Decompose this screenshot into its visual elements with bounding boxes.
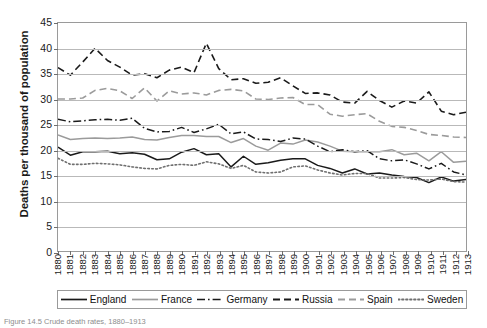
x-tick-label: 1913: [462, 254, 473, 275]
legend-item-france[interactable]: France: [132, 294, 192, 305]
x-tick-label: 1910: [425, 254, 436, 275]
gridline: [58, 227, 466, 228]
x-tick-label: 1905: [363, 254, 374, 275]
chart-lines: [58, 23, 466, 251]
x-tick-label: 1896: [251, 254, 262, 275]
y-tick-mark: [54, 100, 58, 101]
x-tick-label: 1901: [313, 254, 324, 275]
x-tick-label: 1908: [400, 254, 411, 275]
x-tick-label: 1903: [338, 254, 349, 275]
x-tick-label: 1898: [276, 254, 287, 275]
y-tick-mark: [54, 49, 58, 50]
y-tick-mark: [54, 202, 58, 203]
x-tick-label: 1897: [263, 254, 274, 275]
legend-swatch-russia: [273, 295, 299, 304]
gridline: [58, 151, 466, 152]
legend-item-spain[interactable]: Spain: [338, 294, 393, 305]
legend-label: England: [90, 294, 127, 305]
x-tick-label: 1887: [139, 254, 150, 275]
figure-caption: Figure 14.5 Crude death rates, 1880–1913: [4, 317, 146, 326]
legend-swatch-england: [61, 295, 87, 304]
x-tick-label: 1885: [114, 254, 125, 275]
chart-legend: EnglandFranceGermanyRussiaSpainSweden: [57, 290, 467, 309]
x-tick-label: 1889: [164, 254, 175, 275]
y-tick-label: 15: [18, 169, 52, 181]
plot-area: [57, 22, 467, 252]
legend-label: France: [161, 294, 192, 305]
series-line-russia: [58, 43, 466, 114]
x-tick-label: 1907: [387, 254, 398, 275]
x-tick-label: 1886: [127, 254, 138, 275]
x-tick-label: 1880: [52, 254, 63, 275]
legend-item-russia[interactable]: Russia: [273, 294, 333, 305]
gridline: [58, 176, 466, 177]
y-tick-label: 5: [18, 220, 52, 232]
gridline: [58, 49, 466, 50]
x-tick-label: 1894: [226, 254, 237, 275]
y-tick-mark: [54, 176, 58, 177]
legend-swatch-france: [132, 295, 158, 304]
y-tick-mark: [54, 74, 58, 75]
y-tick-label: 10: [18, 195, 52, 207]
x-tick-label: 1902: [325, 254, 336, 275]
x-tick-label: 1881: [64, 254, 75, 275]
legend-label: Russia: [302, 294, 333, 305]
y-tick-label: 40: [18, 42, 52, 54]
y-tick-mark: [54, 125, 58, 126]
gridline: [58, 202, 466, 203]
series-line-france: [58, 135, 466, 162]
x-tick-label: 1892: [201, 254, 212, 275]
series-line-spain: [58, 88, 466, 138]
legend-swatch-sweden: [398, 295, 424, 304]
x-tick-label: 1906: [375, 254, 386, 275]
legend-swatch-germany: [197, 295, 223, 304]
x-tick-label: 1883: [89, 254, 100, 275]
x-tick-label: 1884: [102, 254, 113, 275]
x-tick-label: 1912: [450, 254, 461, 275]
y-axis-tick-labels: 051015202530354045: [18, 16, 52, 256]
legend-swatch-spain: [338, 295, 364, 304]
x-tick-label: 1891: [189, 254, 200, 275]
y-tick-label: 25: [18, 118, 52, 130]
legend-label: Germany: [226, 294, 267, 305]
legend-item-england[interactable]: England: [61, 294, 127, 305]
x-tick-label: 1900: [300, 254, 311, 275]
gridline: [58, 74, 466, 75]
figure-container: Deaths per thousand of population 051015…: [0, 0, 487, 328]
x-tick-label: 1911: [437, 254, 448, 274]
y-tick-label: 45: [18, 16, 52, 28]
x-tick-label: 1895: [238, 254, 249, 275]
gridline: [58, 100, 466, 101]
y-tick-label: 20: [18, 144, 52, 156]
x-tick-label: 1888: [151, 254, 162, 275]
y-tick-mark: [54, 151, 58, 152]
legend-label: Spain: [367, 294, 393, 305]
x-tick-label: 1882: [77, 254, 88, 275]
y-tick-label: 30: [18, 93, 52, 105]
x-tick-label: 1909: [412, 254, 423, 275]
y-tick-mark: [54, 23, 58, 24]
x-tick-label: 1890: [176, 254, 187, 275]
gridline: [58, 125, 466, 126]
x-axis-tick-labels: 1880188118821883188418851886188718881889…: [57, 254, 467, 294]
legend-label: Sweden: [427, 294, 463, 305]
y-tick-label: 0: [18, 246, 52, 258]
y-tick-mark: [54, 227, 58, 228]
series-line-sweden: [58, 158, 466, 182]
x-tick-label: 1893: [214, 254, 225, 275]
x-tick-label: 1904: [350, 254, 361, 275]
x-tick-label: 1899: [288, 254, 299, 275]
y-tick-label: 35: [18, 67, 52, 79]
legend-item-germany[interactable]: Germany: [197, 294, 267, 305]
legend-item-sweden[interactable]: Sweden: [398, 294, 463, 305]
